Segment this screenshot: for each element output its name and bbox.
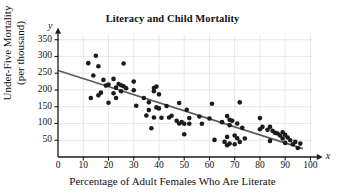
y-tick-label: 100 (26, 117, 52, 127)
x-tick-label: 70 (225, 160, 245, 170)
data-point (184, 107, 189, 112)
y-tick-label: 50 (26, 134, 52, 144)
data-point (293, 140, 298, 145)
data-point (106, 82, 111, 87)
data-point (134, 103, 139, 108)
data-point (114, 96, 119, 101)
data-point (288, 138, 293, 143)
data-point (169, 113, 174, 118)
y-tick-label: 350 (26, 34, 52, 44)
data-point (283, 141, 288, 146)
data-point (237, 100, 242, 105)
y-tick-label: 150 (26, 101, 52, 111)
x-tick-label: 30 (124, 160, 144, 170)
data-point (220, 120, 225, 125)
data-point (96, 64, 101, 69)
data-point (89, 96, 94, 101)
data-point (106, 100, 111, 105)
data-point (200, 122, 205, 127)
x-tick-label: 0 (48, 160, 68, 170)
x-tick-label: 20 (98, 160, 118, 170)
data-point (240, 126, 245, 131)
data-point (111, 77, 116, 82)
data-point (182, 122, 187, 127)
data-point (91, 73, 96, 78)
y-tick-label: 300 (26, 50, 52, 60)
y-axis-letter: y (48, 20, 52, 31)
data-point (144, 113, 149, 118)
data-point (152, 115, 157, 120)
data-point (152, 89, 157, 94)
data-point (237, 140, 242, 145)
data-point (242, 136, 247, 141)
data-point (149, 126, 154, 131)
x-axis-letter: x (326, 150, 330, 161)
data-point (86, 61, 91, 66)
data-point (230, 119, 235, 124)
data-point (187, 116, 192, 121)
data-point (260, 125, 265, 130)
x-tick-label: 60 (199, 160, 219, 170)
data-point (121, 61, 126, 66)
y-axis-arrow (55, 28, 61, 34)
data-point (235, 121, 240, 126)
data-point (147, 108, 152, 113)
data-point (177, 101, 182, 106)
data-point (124, 86, 129, 91)
x-tick-label: 40 (149, 160, 169, 170)
x-tick-label: 80 (250, 160, 270, 170)
data-point (232, 142, 237, 147)
data-point (227, 123, 232, 128)
data-point (157, 106, 162, 111)
data-point (154, 84, 159, 89)
data-point (207, 116, 212, 121)
data-point (197, 114, 202, 119)
data-point (225, 135, 230, 140)
data-point (268, 139, 273, 144)
data-point (119, 89, 124, 94)
data-point (157, 92, 162, 97)
x-tick-label: 50 (174, 160, 194, 170)
trend-line (58, 71, 303, 149)
data-point (147, 100, 152, 105)
data-point (258, 116, 263, 121)
data-point (298, 141, 303, 146)
data-point (111, 91, 116, 96)
data-point (187, 122, 192, 127)
data-point (210, 101, 215, 106)
data-point (94, 53, 99, 58)
data-point (212, 138, 217, 143)
data-points (86, 53, 303, 150)
data-point (131, 88, 136, 93)
data-point (296, 146, 301, 151)
data-point (164, 104, 169, 109)
x-tick-label: 100 (300, 160, 320, 170)
data-point (159, 115, 164, 120)
x-tick-label: 10 (73, 160, 93, 170)
data-point (131, 79, 136, 84)
chart-figure: Literacy and Child Mortality Under-Five … (0, 0, 345, 193)
data-point (227, 141, 232, 146)
data-point (182, 132, 187, 137)
y-tick-label: 250 (26, 67, 52, 77)
x-tick-label: 90 (275, 160, 295, 170)
data-point (99, 90, 104, 95)
data-point (268, 125, 273, 130)
y-tick-label: 200 (26, 84, 52, 94)
data-point (142, 96, 147, 101)
data-point (101, 78, 106, 83)
